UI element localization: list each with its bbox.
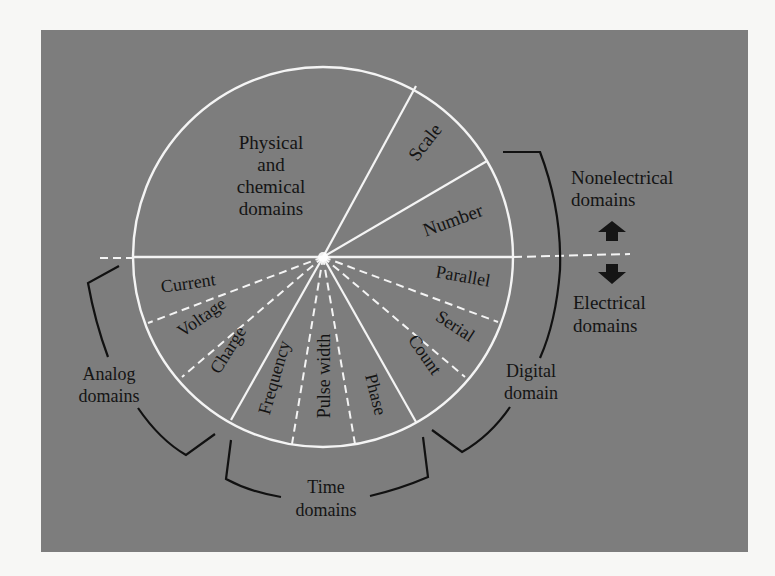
svg-text:Electrical: Electrical (573, 292, 646, 313)
svg-text:Physical: Physical (239, 132, 303, 153)
svg-text:domains: domains (573, 315, 637, 336)
center-point (318, 252, 328, 262)
data-domains-diagram: Physical and chemical domains Scale Numb… (0, 0, 775, 576)
svg-text:domains: domains (296, 500, 357, 520)
svg-text:chemical: chemical (237, 176, 306, 197)
svg-text:Time: Time (307, 477, 344, 497)
svg-text:domains: domains (79, 386, 140, 406)
svg-text:Digital: Digital (506, 361, 556, 381)
svg-text:domain: domain (504, 383, 558, 403)
svg-text:domains: domains (571, 189, 635, 210)
svg-text:Nonelectrical: Nonelectrical (571, 167, 673, 188)
svg-text:domains: domains (239, 198, 303, 219)
svg-text:Analog: Analog (83, 364, 136, 384)
physical-chemical-label: Physical and chemical domains (237, 132, 306, 219)
diagram-panel (41, 30, 748, 552)
svg-text:and: and (257, 154, 285, 175)
sector-label-pulse-width: Pulse width (314, 334, 334, 419)
